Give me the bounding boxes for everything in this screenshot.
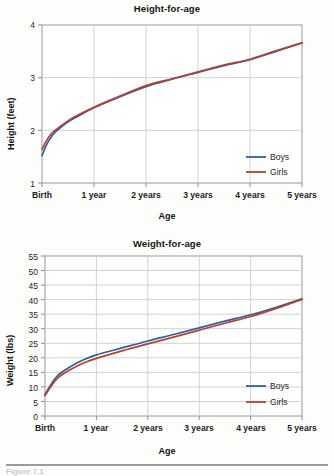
xtick-label-4years: 4 years — [225, 423, 277, 433]
figure-caption: Figure 7.1 — [6, 467, 44, 476]
ytick-label-5: 5 — [18, 398, 38, 408]
xtick-label-birth: Birth — [20, 190, 64, 200]
chart-weight-for-age: Weight-for-age — [0, 234, 334, 462]
ytick-label-0: 0 — [18, 412, 38, 422]
ytick-label-50: 50 — [18, 267, 38, 277]
x-axis-title-weight: Age — [0, 446, 334, 456]
x-axis-title-height: Age — [0, 211, 334, 221]
xtick-label-2years: 2 years — [120, 190, 172, 200]
footer-divider — [6, 464, 328, 466]
xtick-label-5years: 5 years — [276, 423, 328, 433]
xtick-label-1year: 1 year — [70, 190, 118, 200]
legend-label-boys: Boys — [270, 152, 289, 162]
ytick-label-10: 10 — [18, 383, 38, 393]
y-axis-title-weight: Weight (lbs) — [5, 335, 15, 386]
legend-label-girls: Girls — [270, 397, 288, 407]
ytick-label-2: 2 — [22, 126, 35, 136]
xtick-label-2years: 2 years — [122, 423, 174, 433]
ytick-label-35: 35 — [18, 310, 38, 320]
y-axis-title-height: Height (feet) — [6, 98, 16, 151]
ytick-label-3: 3 — [22, 73, 35, 83]
xtick-label-3years: 3 years — [173, 423, 225, 433]
ytick-label-20: 20 — [18, 354, 38, 364]
legend-label-girls: Girls — [270, 167, 288, 177]
xtick-label-5years: 5 years — [276, 190, 328, 200]
chart-height-for-age: Height-for-age — [0, 0, 334, 228]
xtick-label-birth: Birth — [23, 423, 67, 433]
ytick-label-15: 15 — [18, 368, 38, 378]
ytick-label-30: 30 — [18, 325, 38, 335]
xticks — [45, 416, 302, 420]
xtick-label-3years: 3 years — [172, 190, 224, 200]
plot-area-border — [42, 25, 302, 183]
yticks — [41, 256, 45, 416]
xtick-label-4years: 4 years — [224, 190, 276, 200]
ytick-label-55: 55 — [18, 252, 38, 262]
legend-label-boys: Boys — [270, 381, 289, 391]
plot-area-border — [45, 256, 302, 416]
ytick-label-4: 4 — [22, 20, 35, 30]
ytick-label-40: 40 — [18, 296, 38, 306]
ytick-label-25: 25 — [18, 339, 38, 349]
ytick-label-1: 1 — [22, 179, 35, 189]
ytick-label-45: 45 — [18, 281, 38, 291]
xtick-label-1year: 1 year — [72, 423, 120, 433]
